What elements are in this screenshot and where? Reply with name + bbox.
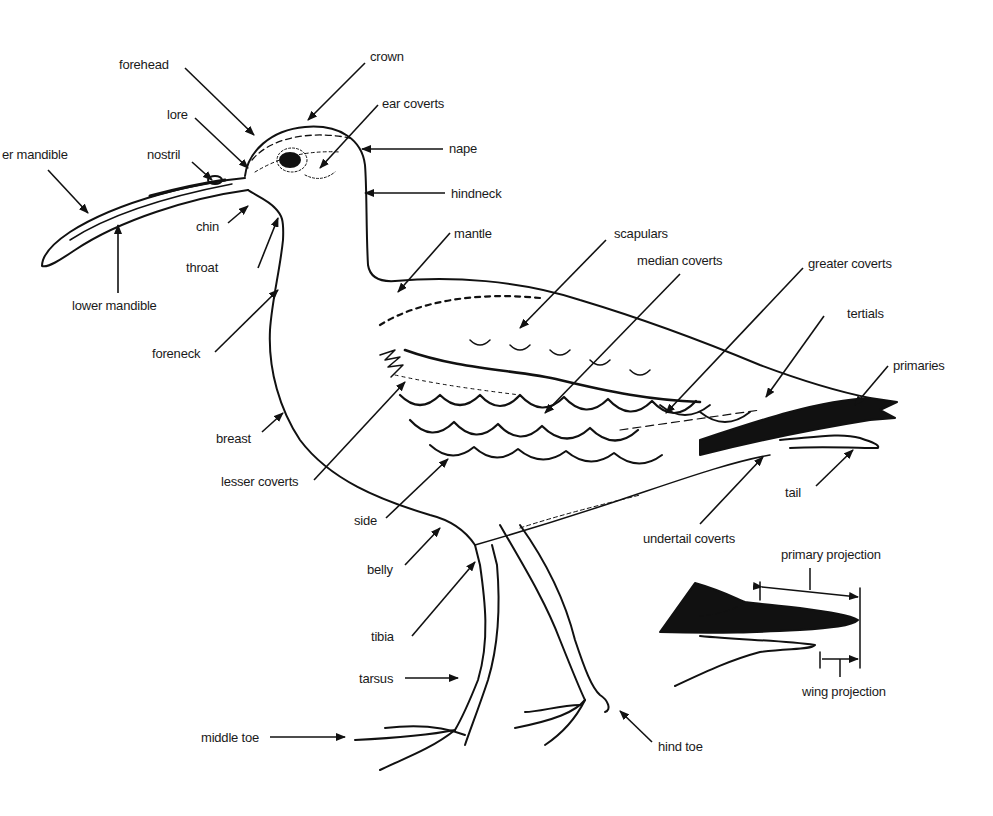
label-ear-coverts: ear coverts <box>382 96 444 111</box>
label-tibia: tibia <box>371 629 394 644</box>
label-foreneck: foreneck <box>152 346 200 361</box>
label-lore: lore <box>167 107 188 122</box>
label-throat: throat <box>186 260 218 275</box>
label-chin: chin <box>196 219 219 234</box>
label-tail: tail <box>785 485 801 500</box>
bird-legs <box>355 525 609 770</box>
bird-topography-diagram: er mandible forehead crown lore ear cove… <box>0 0 993 816</box>
label-breast: breast <box>216 431 251 446</box>
label-crown: crown <box>370 49 404 64</box>
label-mantle: mantle <box>454 226 492 241</box>
wing-projection-inset <box>660 582 860 686</box>
label-wing-projection: wing projection <box>802 684 886 699</box>
label-hindneck: hindneck <box>451 186 501 201</box>
label-middle-toe: middle toe <box>201 730 259 745</box>
label-primary-projection: primary projection <box>781 547 881 562</box>
label-greater-coverts: greater coverts <box>808 256 892 271</box>
label-side: side <box>354 513 377 528</box>
label-scapulars: scapulars <box>614 226 668 241</box>
label-nape: nape <box>449 141 477 156</box>
label-nostril: nostril <box>147 147 180 162</box>
label-belly: belly <box>367 562 393 577</box>
label-lower-mandible: lower mandible <box>72 298 157 313</box>
label-undertail-coverts: undertail coverts <box>643 531 735 546</box>
label-upper-mandible: er mandible <box>2 147 68 162</box>
label-median-coverts: median coverts <box>637 253 722 268</box>
label-forehead: forehead <box>119 57 169 72</box>
label-tertials: tertials <box>847 306 884 321</box>
label-hind-toe: hind toe <box>658 739 703 754</box>
label-primaries: primaries <box>893 358 945 373</box>
label-tarsus: tarsus <box>359 671 393 686</box>
label-lesser-coverts: lesser coverts <box>221 474 298 489</box>
